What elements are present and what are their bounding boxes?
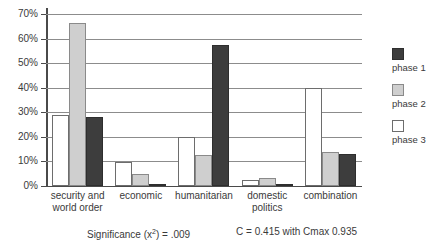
x-axis-label: domesticpolitics	[236, 190, 299, 214]
bar	[242, 180, 259, 186]
bar-group	[299, 14, 362, 186]
significance-prefix: Significance (x	[87, 229, 152, 240]
x-axis-label: combination	[299, 190, 362, 202]
legend-item-phase-1: phase 1	[392, 48, 444, 73]
legend-swatch-icon-phase-1	[392, 48, 404, 60]
bar-group	[46, 14, 109, 186]
x-axis-label-line: economic	[109, 190, 172, 202]
significance-statistic: Significance (x2) = .009	[87, 226, 190, 241]
x-axis-label: economic	[109, 190, 172, 202]
bar-group	[109, 14, 172, 186]
x-axis-label-line: domestic	[236, 190, 299, 202]
y-axis-label-20: 20%	[18, 132, 38, 142]
x-axis-label-line: politics	[236, 202, 299, 214]
bar	[305, 88, 322, 186]
chart-legend: phase 1 phase 2 phase 3	[392, 48, 444, 156]
bar	[322, 152, 339, 186]
x-axis-label: humanitarian	[172, 190, 235, 202]
x-axis-label-line: humanitarian	[172, 190, 235, 202]
bar	[339, 154, 356, 186]
bar-chart: 70%60%50%40%30%20%10%0% security andworl…	[0, 0, 444, 248]
contingency-statistic: C = 0.415 with Cmax 0.935	[236, 226, 357, 241]
significance-suffix: ) = .009	[156, 229, 190, 240]
bar	[86, 117, 103, 186]
y-axis-label-70: 70%	[18, 9, 38, 19]
bar	[69, 23, 86, 186]
bar	[259, 178, 276, 186]
legend-label-phase-1: phase 1	[392, 62, 444, 73]
bar	[52, 115, 69, 186]
bar	[149, 184, 166, 186]
bar	[276, 184, 293, 186]
bar	[195, 155, 212, 186]
bar	[132, 174, 149, 186]
y-axis-label-30: 30%	[18, 107, 38, 117]
x-axis-label-line: security and	[46, 190, 109, 202]
y-axis-label-0: 0%	[24, 181, 38, 191]
bar-group	[172, 14, 235, 186]
legend-swatch-icon-phase-2	[392, 84, 404, 96]
y-tick-mark-0	[41, 186, 46, 187]
bar	[212, 45, 229, 186]
legend-label-phase-3: phase 3	[392, 134, 444, 145]
gridline-0	[46, 186, 362, 187]
bar	[115, 162, 132, 186]
legend-label-phase-2: phase 2	[392, 98, 444, 109]
y-axis-label-40: 40%	[18, 83, 38, 93]
y-axis-label-60: 60%	[18, 34, 38, 44]
x-axis-label: security andworld order	[46, 190, 109, 214]
legend-item-phase-2: phase 2	[392, 84, 444, 109]
chart-footer: Significance (x2) = .009 C = 0.415 with …	[0, 226, 444, 241]
plot-area: 70%60%50%40%30%20%10%0%	[46, 14, 362, 186]
x-axis-label-line: combination	[299, 190, 362, 202]
bar	[178, 137, 195, 186]
y-axis-label-50: 50%	[18, 58, 38, 68]
legend-swatch-icon-phase-3	[392, 120, 404, 132]
x-axis-label-line: world order	[46, 202, 109, 214]
bar-group	[236, 14, 299, 186]
y-axis-label-10: 10%	[18, 156, 38, 166]
legend-item-phase-3: phase 3	[392, 120, 444, 145]
